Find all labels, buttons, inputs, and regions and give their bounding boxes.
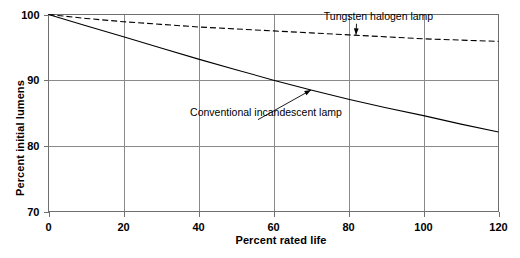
chart-container: Tungsten halogen lampConventional incand…	[0, 0, 520, 258]
annotation-arrowhead	[304, 90, 311, 95]
x-tick-label: 20	[117, 221, 129, 233]
x-tick-label: 0	[45, 221, 51, 233]
annotation-label: Conventional incandescent lamp	[190, 106, 342, 118]
annotation-label: Tungsten halogen lamp	[324, 10, 434, 22]
annotation-arrowhead	[354, 28, 359, 35]
x-tick-label: 60	[267, 221, 279, 233]
x-tick-label: 80	[342, 221, 354, 233]
series-annotations: Tungsten halogen lampConventional incand…	[190, 10, 433, 120]
y-axis-title: Percent initial lumens	[14, 16, 26, 196]
x-tick-label: 120	[489, 221, 507, 233]
x-tick-label: 40	[192, 221, 204, 233]
x-tick-label: 100	[414, 221, 432, 233]
x-axis-tick-labels: 020406080100120	[45, 221, 507, 233]
y-tick-label: 70	[27, 206, 39, 218]
line-chart: Tungsten halogen lampConventional incand…	[0, 0, 520, 258]
y-tick-label: 80	[27, 140, 39, 152]
y-tick-label: 90	[27, 74, 39, 86]
x-axis-title: Percent rated life	[0, 234, 520, 246]
